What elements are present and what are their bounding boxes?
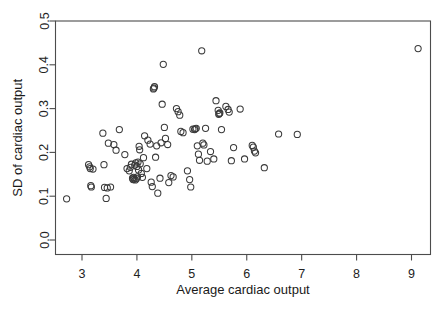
data-point <box>184 168 190 174</box>
data-point <box>241 156 247 162</box>
x-tick-label: 6 <box>243 267 250 281</box>
plot-box <box>56 21 431 255</box>
data-point <box>170 174 176 180</box>
x-tick-label: 7 <box>298 267 305 281</box>
data-point <box>142 133 148 139</box>
data-point <box>237 106 243 112</box>
x-tick-label: 8 <box>353 267 360 281</box>
data-point <box>415 45 421 51</box>
x-tick-label: 9 <box>408 267 415 281</box>
x-tick-label: 4 <box>133 267 140 281</box>
data-point <box>202 125 208 131</box>
scatter-plot-figure: 0.00.10.20.30.40.5 3456789 Average cardi… <box>0 0 447 309</box>
data-point <box>250 144 256 150</box>
data-point <box>100 130 106 136</box>
data-point <box>199 48 205 54</box>
data-point <box>294 131 300 137</box>
data-point <box>207 148 213 154</box>
data-point <box>228 158 234 164</box>
data-point <box>140 155 146 161</box>
data-point <box>211 156 217 162</box>
data-point <box>188 184 194 190</box>
data-point <box>148 179 154 185</box>
y-tick-label: 0.3 <box>38 100 52 117</box>
data-points-layer <box>64 45 422 201</box>
data-point <box>154 143 160 149</box>
y-tick-label: 0.0 <box>38 231 52 248</box>
data-point <box>64 196 70 202</box>
data-point <box>261 165 267 171</box>
data-point <box>152 154 158 160</box>
x-axis: 3456789 <box>79 255 416 281</box>
data-point <box>122 151 128 157</box>
data-point <box>218 127 224 133</box>
data-point <box>155 190 161 196</box>
data-point <box>204 158 210 164</box>
data-point <box>165 141 171 147</box>
data-point <box>157 175 163 181</box>
data-point <box>195 151 201 157</box>
y-tick-label: 0.5 <box>38 12 52 29</box>
y-tick-label: 0.1 <box>38 187 52 204</box>
y-axis: 0.00.10.20.30.40.5 <box>38 12 56 248</box>
data-point <box>116 127 122 133</box>
data-point <box>230 144 236 150</box>
x-axis-title: Average cardiac output <box>176 282 310 297</box>
x-tick-label: 3 <box>79 267 86 281</box>
data-point <box>196 157 202 163</box>
data-point <box>213 98 219 104</box>
data-point <box>160 61 166 67</box>
data-point <box>158 140 164 146</box>
data-point <box>187 176 193 182</box>
plot-canvas: 0.00.10.20.30.40.5 3456789 Average cardi… <box>0 0 447 309</box>
data-point <box>103 195 109 201</box>
data-point <box>159 101 165 107</box>
plot-frame <box>56 21 431 255</box>
data-point <box>180 130 186 136</box>
data-point <box>144 166 150 172</box>
data-point <box>201 142 207 148</box>
x-tick-label: 5 <box>188 267 195 281</box>
data-point <box>149 183 155 189</box>
axis-titles-layer: Average cardiac outputSD of cardiac outp… <box>10 78 311 297</box>
data-point <box>276 131 282 137</box>
y-tick-label: 0.4 <box>38 56 52 73</box>
data-point <box>161 124 167 130</box>
data-point <box>101 162 107 168</box>
data-point <box>113 147 119 153</box>
y-axis-title: SD of cardiac output <box>10 78 25 196</box>
data-point <box>166 180 172 186</box>
y-tick-label: 0.2 <box>38 144 52 161</box>
